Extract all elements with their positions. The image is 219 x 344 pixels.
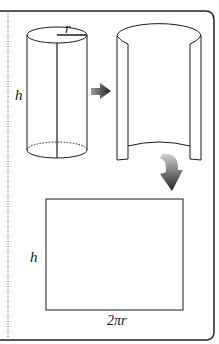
rectangle-width-label: 2πr	[107, 313, 127, 328]
cylinder-radius-label: r	[65, 21, 71, 36]
diagram-frame: r h h 2πr	[0, 0, 219, 344]
frame-border	[0, 11, 214, 340]
curved-arrow-icon	[160, 154, 183, 191]
rectangle-height-label: h	[30, 249, 38, 265]
cylinder	[27, 27, 87, 158]
unrolled-rectangle	[46, 199, 183, 310]
unrolled-tube	[117, 24, 201, 160]
straight-arrow-icon	[91, 83, 111, 99]
cylinder-height-label: h	[15, 87, 23, 103]
